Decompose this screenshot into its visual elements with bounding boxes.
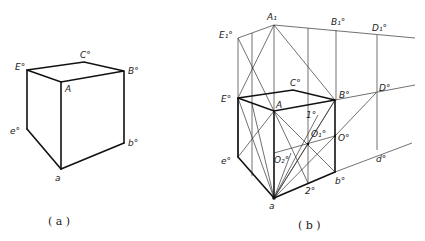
figure-a-cube (27, 62, 124, 169)
label-b-O2: O₂° (274, 155, 289, 165)
label-b-B: B° (339, 90, 350, 100)
label-b-A1: A₁ (266, 12, 277, 22)
label-b-E: E° (221, 94, 231, 104)
label-b-O1: O₁° (311, 129, 326, 139)
caption-b: ( b ) (298, 219, 321, 232)
label-b-D: D° (379, 83, 390, 93)
label-a-b: b° (128, 138, 138, 148)
label-b-b: b° (335, 176, 345, 186)
bottom-left-edge (27, 129, 61, 169)
label-a-C: C° (80, 50, 91, 60)
figure-b-construction (238, 25, 415, 198)
label-b-C: C° (290, 78, 301, 88)
label-b-2: 2° (305, 186, 315, 196)
caption-a: ( a ) (48, 215, 70, 228)
label-b-e: e° (221, 156, 231, 166)
label-b-O: O° (338, 133, 350, 143)
label-b-d: d° (376, 154, 386, 164)
label-b-D1: D₁° (372, 23, 387, 33)
label-b-B1: B₁° (331, 17, 345, 27)
diagram-canvas: E° C° B° A e° b° a ( a ) (0, 0, 425, 241)
label-b-a: a (269, 201, 275, 211)
top-face (27, 62, 124, 82)
label-b-A: A (275, 100, 282, 110)
bottom-right-edge (61, 143, 124, 169)
label-a-a: a (55, 173, 61, 183)
label-a-A: A (64, 84, 71, 94)
label-b-E1: E₁° (219, 30, 233, 40)
label-b-1: 1° (306, 110, 316, 120)
label-a-E: E° (15, 62, 25, 72)
label-a-e: e° (10, 126, 20, 136)
label-a-B: B° (128, 66, 139, 76)
